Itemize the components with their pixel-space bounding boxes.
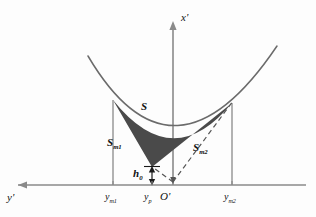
vertical-axis xyxy=(169,21,176,185)
vertical-axis-arrowhead xyxy=(169,21,176,30)
tick-label-y-p: yp xyxy=(144,192,151,204)
tick-label-y-m1: ym1 xyxy=(105,192,117,204)
area-label-sm2: Sm2 xyxy=(193,142,208,156)
area-label-s: S xyxy=(141,101,147,112)
diagram-canvas xyxy=(0,0,316,217)
parabola-area-diagram: x' y' S Sm1 Sm2 h0 ym1 yp O' ym2 xyxy=(0,0,316,217)
parabola-curve xyxy=(88,46,277,126)
origin-label: O' xyxy=(160,191,170,202)
y-axis-label: y' xyxy=(7,192,14,203)
tick-label-y-m2: ym2 xyxy=(224,192,236,204)
x-axis-label: x' xyxy=(181,12,188,23)
height-label-h0: h0 xyxy=(133,168,142,182)
horizontal-axis xyxy=(18,181,306,188)
horizontal-axis-arrowhead xyxy=(18,181,27,188)
area-label-sm1: Sm1 xyxy=(107,137,122,151)
